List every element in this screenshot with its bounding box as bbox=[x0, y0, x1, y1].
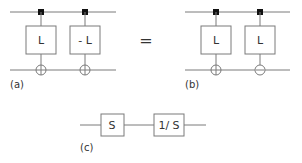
block-label: L bbox=[257, 34, 264, 47]
diagram-c-label: (c) bbox=[80, 142, 93, 153]
block-label: S bbox=[109, 119, 116, 132]
diagram-b: L L (b) bbox=[185, 9, 290, 90]
block-label: 1/ S bbox=[158, 119, 179, 132]
block-label: L bbox=[38, 34, 45, 47]
block-diagram: L - L (a) = L L (b) bbox=[0, 0, 302, 163]
diagram-c: S 1/ S (c) bbox=[80, 114, 206, 153]
block-label: - L bbox=[78, 34, 92, 47]
diagram-a: L - L (a) bbox=[10, 9, 116, 90]
equals-sign: = bbox=[139, 31, 152, 50]
diagram-b-label: (b) bbox=[185, 79, 199, 90]
diagram-a-label: (a) bbox=[10, 79, 24, 90]
block-label: L bbox=[213, 34, 220, 47]
